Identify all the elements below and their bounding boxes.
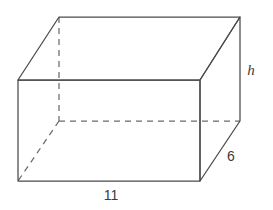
figure-container: h 6 11 bbox=[0, 0, 273, 210]
depth-label: 6 bbox=[227, 148, 235, 164]
height-label: h bbox=[247, 62, 255, 78]
front-face-fill bbox=[18, 80, 200, 181]
rectangular-prism-diagram: h 6 11 bbox=[0, 0, 273, 210]
width-label: 11 bbox=[104, 187, 119, 203]
